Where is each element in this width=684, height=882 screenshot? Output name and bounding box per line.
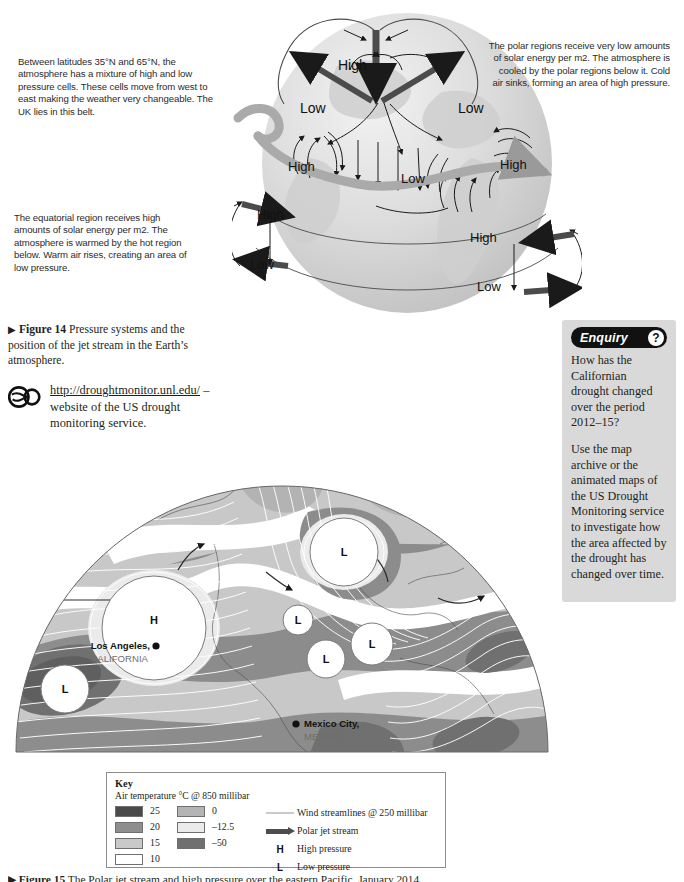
map-marker-label-low-canada: L xyxy=(341,546,348,558)
swatch-25 xyxy=(115,806,143,817)
key-row-temp-minus-50: –50 xyxy=(177,836,249,850)
key-column-temp-right: 0 –12.5 –50 xyxy=(177,804,249,875)
weather-map: H L L L L L Los Angeles, CALIFORNIA Mexi… xyxy=(8,452,556,762)
key-label-10: 10 xyxy=(150,854,160,864)
question-mark-icon: ? xyxy=(648,330,664,346)
key-row-temp-25: 25 xyxy=(115,804,177,818)
map-marker-label-low-southwest: L xyxy=(62,683,69,695)
swatch-minus-50 xyxy=(177,838,205,849)
swatch-0 xyxy=(177,806,205,817)
region-label-mexico: MEXICO xyxy=(304,731,342,742)
figure14-caption: ▶ Figure 14 Pressure systems and the pos… xyxy=(8,322,223,369)
swatch-10 xyxy=(115,854,143,865)
map-marker-label-low-central: L xyxy=(295,614,302,626)
enquiry-title: Enquiry xyxy=(580,331,628,345)
swatch-minus-12-5 xyxy=(177,822,205,833)
figure15-caption: ▶ Figure 15 The Polar jet stream and hig… xyxy=(8,872,668,882)
high-pressure-icon: H xyxy=(263,844,297,855)
key-column-temp-left: 25 20 15 10 xyxy=(115,804,177,875)
map-marker-label-low-atlantic: L xyxy=(369,638,376,650)
city-label-mexico-city: Mexico City, xyxy=(304,718,360,729)
map-temperature-field xyxy=(8,452,556,762)
key-label-0: 0 xyxy=(212,806,217,816)
caption-marker-icon: ▶ xyxy=(8,324,16,335)
key-column-symbols: Wind streamlines @ 250 millibar Polar je… xyxy=(249,804,428,875)
key-row-temp-10: 10 xyxy=(115,852,177,866)
key-label-wind-streamlines: Wind streamlines @ 250 millibar xyxy=(297,808,428,818)
key-label-minus-12-5: –12.5 xyxy=(212,822,234,832)
key-subtitle: Air temperature °C @ 850 millibar xyxy=(115,790,437,802)
map-marker-label-high-pacific: H xyxy=(150,614,158,626)
low-pressure-icon: L xyxy=(263,862,297,873)
map-marker-high-pacific xyxy=(102,576,206,680)
annotation-equatorial: The equatorial region receives high amou… xyxy=(14,212,194,274)
key-label-low-pressure: Low pressure xyxy=(297,862,350,872)
wind-streamline-icon xyxy=(263,812,297,814)
swatch-20 xyxy=(115,822,143,833)
enquiry-panel: Enquiry ? How has the Californian drough… xyxy=(562,320,676,602)
key-row-temp-20: 20 xyxy=(115,820,177,834)
weblink-url[interactable]: http://droughtmonitor.unl.edu/ xyxy=(50,383,200,397)
key-title: Key xyxy=(115,778,437,790)
weblink-block[interactable]: http://droughtmonitor.unl.edu/ – website… xyxy=(8,382,223,432)
key-row-temp-15: 15 xyxy=(115,836,177,850)
key-row-high-pressure: H High pressure xyxy=(263,841,428,857)
key-label-polar-jet-stream: Polar jet stream xyxy=(297,826,358,836)
key-row-polar-jet-stream: Polar jet stream xyxy=(263,823,428,839)
city-label-los-angeles: Los Angeles, xyxy=(91,640,151,651)
key-row-wind-streamlines: Wind streamlines @ 250 millibar xyxy=(263,805,428,821)
key-label-25: 25 xyxy=(150,806,160,816)
enquiry-task: Use the map archive or the animated maps… xyxy=(571,442,667,582)
weblink-text: http://droughtmonitor.unl.edu/ – website… xyxy=(50,382,223,432)
figure15-caption-marker-icon: ▶ xyxy=(8,873,16,882)
key-row-temp-0: 0 xyxy=(177,804,249,818)
city-dot-mexico-city xyxy=(292,720,299,727)
enquiry-header: Enquiry ? xyxy=(571,327,667,348)
figure15-number: Figure 15 xyxy=(19,873,65,882)
polar-jet-stream-icon xyxy=(263,827,297,835)
figure14-number: Figure 14 xyxy=(19,323,66,336)
map-marker-label-low-gulf: L xyxy=(323,653,330,665)
figure15-caption-text: The Polar jet stream and high pressure o… xyxy=(65,873,422,882)
key-row-temp-minus-12-5: –12.5 xyxy=(177,820,249,834)
annotation-midlatitude: Between latitudes 35°N and 65°N, the atm… xyxy=(18,56,218,118)
glasses-icon xyxy=(8,384,42,410)
map-key: Key Air temperature °C @ 850 millibar 25… xyxy=(106,772,446,868)
key-label-minus-50: –50 xyxy=(212,838,227,848)
key-label-20: 20 xyxy=(150,822,160,832)
enquiry-question: How has the Californian drought changed … xyxy=(571,353,667,431)
city-dot-los-angeles xyxy=(152,642,159,649)
hadley-cell-right xyxy=(514,230,582,292)
page-root: High Low Low High Low High High Low High… xyxy=(0,0,684,882)
key-label-high-pressure: High pressure xyxy=(297,844,352,854)
region-label-california: CALIFORNIA xyxy=(90,653,148,664)
swatch-15 xyxy=(115,838,143,849)
annotation-polar: The polar regions receive very low amoun… xyxy=(488,40,670,90)
key-body: 25 20 15 10 0 xyxy=(115,804,437,875)
key-label-15: 15 xyxy=(150,838,160,848)
